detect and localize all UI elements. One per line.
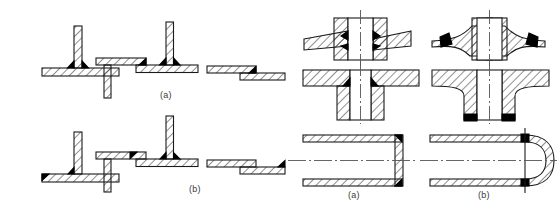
upper-plate — [96, 152, 146, 159]
hub-tube-left — [337, 86, 350, 120]
web-plate — [74, 132, 82, 174]
riser-web — [166, 22, 174, 65]
figure-canvas — [0, 0, 557, 214]
hub-disc-variant-b — [432, 10, 545, 66]
left-group — [42, 22, 285, 192]
weld-rim-left — [440, 33, 452, 47]
vessel-end-variant-b — [420, 128, 557, 193]
weld-riser-left — [160, 153, 166, 160]
vessel-end-variant-a — [288, 135, 418, 186]
row-a-stepped-lap-joint — [96, 22, 198, 98]
top-lap-plate — [207, 160, 256, 167]
bottom-lap-plate — [240, 73, 285, 80]
weld-under-left — [464, 114, 477, 121]
fillet-weld-riser-right — [174, 58, 181, 65]
upper-web — [104, 65, 111, 98]
forged-flange-left — [432, 70, 477, 120]
fillet-weld-left — [68, 61, 75, 68]
upper-web — [104, 159, 111, 192]
fillet-weld-riser-left — [160, 58, 167, 65]
caption-right-b: (b) — [478, 190, 490, 200]
weld-under-right — [502, 114, 515, 121]
right-group — [288, 10, 557, 193]
hub-tube-right — [371, 86, 384, 120]
forged-flange-right — [502, 70, 549, 120]
shell-top-wall — [303, 135, 402, 142]
riser-web — [166, 116, 174, 159]
caption-right-a: (a) — [348, 190, 360, 200]
lower-plate — [136, 65, 198, 73]
hub-flange-variant-a — [303, 62, 419, 124]
caption-left-b: (b) — [189, 184, 201, 194]
shell-bottom-wall-b — [430, 179, 525, 186]
row-b-lap-joint — [207, 160, 285, 174]
welding-detail-figure: (a) (b) (a) (b) — [0, 0, 557, 214]
fillet-weld-lap-far — [278, 161, 285, 168]
web-plate — [74, 26, 82, 68]
fillet-weld-web-root — [68, 168, 74, 175]
shell-bottom-wall — [303, 179, 402, 186]
weld-rim-right — [526, 33, 538, 47]
hub-disc-variant-a — [304, 10, 411, 66]
upper-plate — [96, 58, 146, 65]
lower-plate — [136, 159, 198, 167]
bottom-lap-plate — [240, 167, 285, 174]
fillet-weld-right — [82, 61, 89, 68]
caption-left-a: (a) — [160, 90, 172, 100]
row-a-lap-joint — [207, 66, 285, 80]
hub-flange-variant-b — [432, 62, 549, 124]
top-lap-plate — [207, 66, 256, 73]
weld-riser-right — [174, 153, 181, 160]
flange-right — [371, 70, 419, 86]
row-b-stepped-lap-joint — [96, 116, 198, 192]
flange-left — [303, 70, 350, 86]
shell-top-wall-b — [430, 135, 525, 142]
